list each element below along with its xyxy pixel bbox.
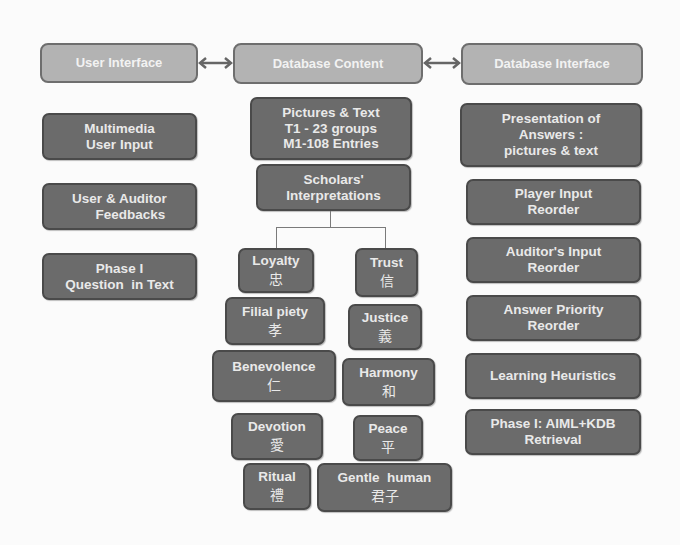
- box-line: Learning Heuristics: [490, 368, 616, 384]
- value-label: Filial piety: [242, 304, 308, 320]
- box-line: Feedbacks: [74, 207, 166, 223]
- value-gentle-human: Gentle human 君子: [317, 463, 452, 512]
- value-ritual: Ritual 禮: [243, 463, 311, 510]
- box-answer-priority-reorder: Answer Priority Reorder: [466, 295, 641, 341]
- box-line: T1 - 23 groups: [285, 121, 377, 137]
- box-line: Question in Text: [65, 277, 174, 293]
- box-line: User & Auditor: [72, 191, 167, 207]
- box-multimedia-user-input: Multimedia User Input: [42, 113, 197, 160]
- bidirectional-arrow-icon: [422, 55, 462, 71]
- box-presentation-of-answers: Presentation of Answers : pictures & tex…: [460, 103, 642, 167]
- box-line: Scholars': [303, 172, 363, 188]
- box-pictures-text: Pictures & Text T1 - 23 groups M1-108 En…: [250, 97, 412, 160]
- value-label: Loyalty: [252, 253, 299, 269]
- box-user-auditor-feedbacks: User & Auditor Feedbacks: [42, 183, 197, 230]
- box-line: Retrieval: [524, 432, 581, 448]
- header-database-content: Database Content: [233, 43, 423, 84]
- value-harmony: Harmony 和: [342, 358, 435, 406]
- tree-connector: [385, 227, 386, 249]
- value-loyalty: Loyalty 忠: [238, 248, 314, 293]
- header-database-interface: Database Interface: [461, 43, 643, 85]
- box-line: Interpretations: [286, 188, 381, 204]
- box-line: M1-108 Entries: [283, 136, 378, 152]
- box-line: pictures & text: [504, 143, 598, 159]
- value-chinese: 仁: [267, 377, 281, 394]
- value-chinese: 和: [382, 383, 396, 400]
- value-chinese: 孝: [268, 322, 282, 339]
- box-scholars-interpretations: Scholars' Interpretations: [256, 164, 411, 211]
- value-chinese: 信: [380, 273, 394, 290]
- tree-connector: [330, 211, 331, 227]
- value-justice: Justice 義: [348, 304, 422, 350]
- value-chinese: 義: [378, 328, 392, 345]
- box-line: Answers :: [519, 127, 584, 143]
- value-chinese: 愛: [270, 437, 284, 454]
- value-filial-piety: Filial piety 孝: [225, 297, 325, 345]
- tree-connector: [276, 227, 277, 249]
- header-label: Database Content: [273, 56, 384, 71]
- value-label: Gentle human: [338, 470, 432, 486]
- value-label: Devotion: [248, 419, 306, 435]
- box-player-input-reorder: Player Input Reorder: [466, 179, 641, 225]
- value-chinese: 忠: [269, 271, 283, 288]
- box-line: Reorder: [528, 318, 580, 334]
- box-auditors-input-reorder: Auditor's Input Reorder: [466, 237, 641, 283]
- header-label: Database Interface: [494, 56, 610, 71]
- box-line: Presentation of: [502, 111, 600, 127]
- value-trust: Trust 信: [355, 248, 418, 297]
- box-phase-i-aiml-kdb-retrieval: Phase I: AIML+KDB Retrieval: [465, 409, 641, 455]
- box-line: Phase I: [96, 261, 143, 277]
- value-chinese: 平: [381, 439, 395, 456]
- header-label: User Interface: [76, 55, 163, 70]
- box-line: Reorder: [528, 260, 580, 276]
- tree-connector: [276, 227, 386, 228]
- value-devotion: Devotion 愛: [231, 413, 323, 460]
- box-line: User Input: [86, 137, 153, 153]
- value-chinese: 禮: [270, 487, 284, 504]
- value-label: Peace: [368, 421, 407, 437]
- value-label: Justice: [362, 310, 409, 326]
- box-phase-i-question: Phase I Question in Text: [42, 253, 197, 300]
- value-label: Harmony: [359, 365, 418, 381]
- value-label: Benevolence: [232, 359, 315, 375]
- box-line: Player Input: [515, 186, 592, 202]
- box-line: Reorder: [528, 202, 580, 218]
- box-line: Multimedia: [84, 121, 155, 137]
- box-learning-heuristics: Learning Heuristics: [465, 353, 641, 399]
- value-chinese: 君子: [371, 488, 399, 505]
- bidirectional-arrow-icon: [197, 55, 234, 71]
- value-label: Trust: [370, 255, 403, 271]
- box-line: Answer Priority: [504, 302, 604, 318]
- value-peace: Peace 平: [353, 415, 423, 461]
- box-line: Pictures & Text: [282, 105, 379, 121]
- box-line: Phase I: AIML+KDB: [490, 416, 615, 432]
- value-benevolence: Benevolence 仁: [212, 350, 336, 402]
- box-line: Auditor's Input: [506, 244, 601, 260]
- header-user-interface: User Interface: [40, 43, 198, 83]
- value-label: Ritual: [258, 469, 296, 485]
